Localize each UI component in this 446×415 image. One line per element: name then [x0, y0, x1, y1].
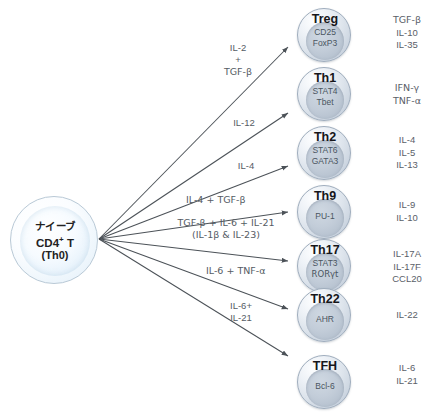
outputs-th2-0: IL-4	[372, 134, 442, 147]
outputs-th1: IFN-γ TNF-α	[372, 82, 442, 107]
cell-th22: Th22 AHR	[297, 288, 351, 342]
cd4-text: CD4	[36, 236, 59, 248]
signal-label-th17-0: TGF-β + IL-6 + IL-21	[155, 217, 297, 229]
signal-label-tfh: IL-6+ IL-21	[212, 300, 270, 324]
outputs-th17-2: CCL20	[372, 273, 442, 286]
signal-label-th1-0: IL-12	[218, 117, 270, 129]
outputs-th9-1: IL-10	[372, 212, 442, 225]
signal-label-th17: TGF-β + IL-6 + IL-21 (IL-1β & IL-23)	[155, 217, 297, 241]
cell-th1-name: Th1	[298, 72, 352, 85]
signal-label-treg-0: IL-2	[205, 42, 271, 54]
outputs-th17-1: IL-17F	[372, 261, 442, 274]
signal-label-th9-0: IL-4 + TGF-β	[186, 194, 246, 206]
cell-th1-factors: STAT4 Tbet	[298, 86, 352, 107]
naive-cell-label: ナイーブ CD4+ T (Th0)	[11, 197, 99, 285]
outputs-treg-2: IL-35	[372, 39, 442, 52]
outputs-th17: IL-17A IL-17F CCL20	[372, 248, 442, 286]
outputs-treg-0: TGF-β	[372, 14, 442, 27]
signal-label-th2-0: IL-4	[222, 160, 270, 172]
cell-th17: Th17 STAT3 RORγt	[297, 239, 351, 293]
signal-label-th1: IL-12	[218, 117, 270, 129]
signal-label-treg-1: +	[205, 54, 271, 66]
outputs-treg: TGF-β IL-10 IL-35	[372, 14, 442, 52]
outputs-th17-0: IL-17A	[372, 248, 442, 261]
outputs-tfh: IL-6 IL-21	[372, 362, 442, 387]
cell-th17-factor-0: STAT3	[298, 258, 352, 269]
cell-tfh-factors: Bcl-6	[298, 381, 352, 392]
cell-tfh: TFH Bcl-6	[297, 355, 351, 409]
outputs-th9-0: IL-9	[372, 199, 442, 212]
cell-th22-factors: AHR	[298, 314, 352, 325]
naive-cell-label-line1: ナイーブ	[35, 220, 76, 233]
outputs-th2-2: IL-13	[372, 159, 442, 172]
cell-th1-factor-0: STAT4	[298, 86, 352, 97]
signal-label-tfh-0: IL-6+	[212, 300, 270, 312]
cell-treg-name: Treg	[298, 13, 352, 26]
outputs-th1-1: TNF-α	[372, 95, 442, 108]
cell-th9-factors: PU-1	[298, 211, 352, 222]
cell-treg: Treg CD25 FoxP3	[297, 8, 351, 62]
outputs-th2: IL-4 IL-5 IL-13	[372, 134, 442, 172]
signal-label-th22: IL-6 + TNF-α	[206, 265, 265, 277]
naive-cd4-t-cell: ナイーブ CD4+ T (Th0)	[10, 196, 98, 284]
signal-label-treg-2: TGF-β	[205, 66, 271, 78]
signal-label-th2: IL-4	[222, 160, 270, 172]
cell-th22-factor-0: AHR	[298, 314, 352, 325]
outputs-th1-0: IFN-γ	[372, 82, 442, 95]
outputs-th9: IL-9 IL-10	[372, 199, 442, 224]
naive-cell-label-line3: (Th0)	[42, 249, 69, 262]
outputs-tfh-1: IL-21	[372, 375, 442, 388]
cell-treg-factor-1: FoxP3	[298, 38, 352, 49]
cell-th17-factors: STAT3 RORγt	[298, 258, 352, 279]
outputs-treg-1: IL-10	[372, 27, 442, 40]
signal-label-tfh-1: IL-21	[212, 312, 270, 324]
cell-tfh-factor-0: Bcl-6	[298, 381, 352, 392]
differentiation-diagram: ナイーブ CD4+ T (Th0) Treg CD25 FoxP3 IL-2 +…	[0, 0, 446, 415]
cell-th9-name: Th9	[298, 190, 352, 203]
cell-th17-name: Th17	[298, 244, 352, 257]
t-text: T	[64, 236, 74, 248]
signal-label-th22-0: IL-6 + TNF-α	[206, 265, 265, 277]
outputs-th2-1: IL-5	[372, 147, 442, 160]
cell-treg-factor-0: CD25	[298, 27, 352, 38]
signal-label-treg: IL-2 + TGF-β	[205, 42, 271, 78]
outputs-th22-0: IL-22	[372, 309, 442, 322]
arrow-to-tfh	[99, 239, 288, 356]
cell-th17-factor-1: RORγt	[298, 269, 352, 280]
cell-tfh-name: TFH	[298, 360, 352, 373]
cell-th1-factor-1: Tbet	[298, 97, 352, 108]
cell-th2-factor-0: STAT6	[298, 145, 352, 156]
outputs-th22: IL-22	[372, 309, 442, 322]
cell-treg-factors: CD25 FoxP3	[298, 27, 352, 48]
signal-label-th17-1: (IL-1β & IL-23)	[155, 229, 297, 241]
outputs-tfh-0: IL-6	[372, 362, 442, 375]
cell-th2-factor-1: GATA3	[298, 156, 352, 167]
cell-th9-factor-0: PU-1	[298, 211, 352, 222]
cell-th2: Th2 STAT6 GATA3	[297, 126, 351, 180]
cell-th2-factors: STAT6 GATA3	[298, 145, 352, 166]
cell-th1: Th1 STAT4 Tbet	[297, 67, 351, 121]
signal-label-th9: IL-4 + TGF-β	[186, 194, 246, 206]
cell-th9: Th9 PU-1	[297, 185, 351, 239]
cell-th22-name: Th22	[298, 293, 352, 306]
naive-cell-label-line2: CD4+ T	[36, 233, 74, 250]
cell-th2-name: Th2	[298, 131, 352, 144]
